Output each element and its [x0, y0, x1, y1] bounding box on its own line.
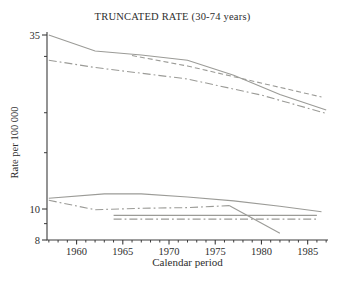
- y-tick-label: 10: [30, 204, 41, 215]
- series-line-upper-dashed-rate: [132, 56, 322, 98]
- series-line-lower-solid-rate: [49, 194, 322, 212]
- y-tick-label: 35: [30, 30, 41, 41]
- chart-title: TRUNCATED RATE (30-74 years): [30, 11, 315, 22]
- plot-area: 35108196019651970197519801985: [0, 0, 345, 292]
- series-line-lower-dashdot-rate: [49, 200, 229, 209]
- series-line-upper-solid-rate: [49, 35, 326, 110]
- x-axis-title: Calendar period: [47, 256, 328, 268]
- y-axis-title: Rate per 100 000: [9, 83, 20, 203]
- chart: TRUNCATED RATE (30-74 years) Rate per 10…: [0, 0, 345, 292]
- series-line-upper-dashdot-rate: [49, 60, 326, 113]
- y-tick-label: 8: [35, 235, 40, 246]
- axis-lines: [47, 32, 328, 240]
